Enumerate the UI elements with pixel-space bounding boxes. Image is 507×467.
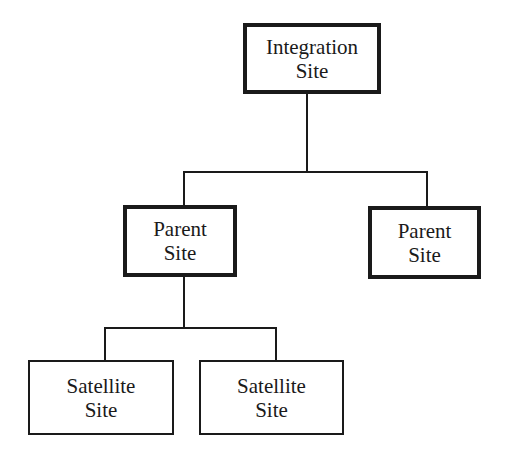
node-label: Parent [398,219,452,243]
node-label: Satellite [237,374,306,398]
node-label: Site [85,398,118,422]
node-label: Satellite [67,374,136,398]
node-label: Site [164,241,197,265]
connector-parent-left-up [183,171,185,206]
node-label: Site [408,243,441,267]
connector-integration-down [306,93,308,173]
node-label: Integration [266,35,358,59]
node-label: Site [255,398,288,422]
node-label: Site [296,59,329,83]
connector-satellites-horizontal [104,327,277,329]
connector-satellite-left-up [104,327,106,361]
connector-parents-horizontal [183,171,428,173]
node-label: Parent [153,217,207,241]
connector-parent-left-down [183,276,185,329]
node-satellite-site-right: Satellite Site [199,360,344,435]
node-satellite-site-left: Satellite Site [28,360,174,435]
connector-parent-right-up [426,171,428,207]
node-integration-site: Integration Site [243,23,381,94]
node-parent-site-right: Parent Site [368,206,481,279]
node-parent-site-left: Parent Site [123,205,237,277]
connector-satellite-right-up [275,327,277,361]
